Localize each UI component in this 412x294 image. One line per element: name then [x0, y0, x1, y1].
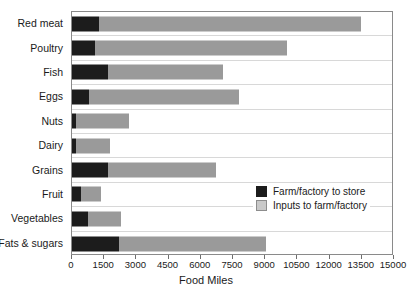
- x-axis-tick-label: 9000: [254, 260, 275, 270]
- x-axis-title: Food Miles: [0, 275, 412, 286]
- bar-segment-inputs-to-farm-factory: [89, 89, 239, 104]
- bar-segment-inputs-to-farm-factory: [108, 65, 223, 80]
- legend-item-farm-factory-to-store: Farm/factory to store: [256, 186, 367, 197]
- bar-segment-inputs-to-farm-factory: [76, 114, 129, 129]
- stacked-bar: [72, 236, 266, 251]
- legend-label-farm-factory-to-store: Farm/factory to store: [273, 187, 365, 197]
- bar-row: [72, 36, 392, 60]
- legend-swatch-light-icon: [256, 200, 267, 211]
- bar-segment-inputs-to-farm-factory: [81, 187, 101, 202]
- bar-segment-farm-factory-to-store: [72, 163, 108, 178]
- stacked-bar: [72, 16, 361, 31]
- y-axis-label-fish: Fish: [0, 67, 63, 78]
- bar-row: [72, 110, 392, 134]
- x-axis: 0150030004500600075009000105001200013500…: [71, 255, 393, 256]
- bar-segment-farm-factory-to-store: [72, 16, 99, 31]
- bar-segment-inputs-to-farm-factory: [95, 41, 287, 56]
- y-axis-label-dairy: Dairy: [0, 140, 63, 151]
- x-axis-tick-label: 7500: [221, 260, 242, 270]
- bar-segment-inputs-to-farm-factory: [76, 138, 109, 153]
- y-axis-label-red-meat: Red meat: [0, 18, 63, 29]
- legend-item-inputs-to-farm-factory: Inputs to farm/factory: [256, 200, 367, 211]
- bar-segment-farm-factory-to-store: [72, 65, 108, 80]
- y-axis-label-eggs: Eggs: [0, 91, 63, 102]
- bar-row: [72, 158, 392, 182]
- x-axis-tick-label: 6000: [189, 260, 210, 270]
- bar-segment-farm-factory-to-store: [72, 211, 88, 226]
- legend-swatch-dark-icon: [256, 186, 267, 197]
- bar-row: [72, 85, 392, 109]
- bar-segment-inputs-to-farm-factory: [108, 163, 215, 178]
- bar-segment-farm-factory-to-store: [72, 187, 81, 202]
- plot-area: [71, 11, 393, 255]
- bar-segment-farm-factory-to-store: [72, 89, 89, 104]
- y-axis-label-grains: Grains: [0, 165, 63, 176]
- y-axis-label-nuts: Nuts: [0, 116, 63, 127]
- stacked-bar: [72, 211, 121, 226]
- food-miles-bar-chart: Red meatPoultryFishEggsNutsDairyGrainsFr…: [0, 0, 412, 294]
- x-axis-tick-label: 4500: [157, 260, 178, 270]
- bar-segment-farm-factory-to-store: [72, 41, 95, 56]
- y-axis-label-vegetables: Vegetables: [0, 213, 63, 224]
- y-axis-label-poultry: Poultry: [0, 43, 63, 54]
- x-axis-tick-label: 0: [68, 260, 73, 270]
- x-axis-tick-label: 1500: [93, 260, 114, 270]
- stacked-bar: [72, 65, 223, 80]
- x-axis-tick-label: 10500: [283, 260, 309, 270]
- x-axis-tick-label: 12000: [315, 260, 341, 270]
- bar-segment-inputs-to-farm-factory: [99, 16, 361, 31]
- bar-segment-inputs-to-farm-factory: [119, 236, 266, 251]
- stacked-bar: [72, 89, 239, 104]
- stacked-bar: [72, 187, 101, 202]
- legend-label-inputs-to-farm-factory: Inputs to farm/factory: [273, 201, 367, 211]
- bar-row: [72, 232, 392, 256]
- chart-legend: Farm/factory to store Inputs to farm/fac…: [253, 184, 370, 213]
- x-axis-tick-label: 3000: [125, 260, 146, 270]
- stacked-bar: [72, 138, 110, 153]
- bar-segment-farm-factory-to-store: [72, 236, 119, 251]
- x-axis-tick-label: 15000: [380, 260, 406, 270]
- bar-rows-layer: [72, 12, 392, 254]
- bar-row: [72, 12, 392, 36]
- stacked-bar: [72, 163, 216, 178]
- bar-row: [72, 61, 392, 85]
- bar-row: [72, 134, 392, 158]
- y-axis-label-fruit: Fruit: [0, 189, 63, 200]
- y-axis-label-fats-sugars: Fats & sugars: [0, 238, 63, 249]
- x-axis-tick-label: 13500: [348, 260, 374, 270]
- stacked-bar: [72, 114, 129, 129]
- stacked-bar: [72, 41, 287, 56]
- bar-segment-inputs-to-farm-factory: [88, 211, 121, 226]
